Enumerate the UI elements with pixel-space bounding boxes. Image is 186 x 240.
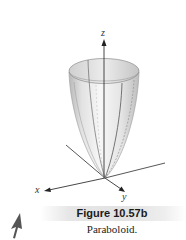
x-axis-arrowhead xyxy=(44,188,51,193)
figure-title: Figure 10.57b xyxy=(0,207,186,220)
x-axis xyxy=(49,178,105,190)
x-axis-label: x xyxy=(35,185,39,195)
figure-caption: Paraboloid. xyxy=(0,223,186,235)
z-axis-label: z xyxy=(101,28,105,38)
paraboloid-graphic xyxy=(0,0,186,205)
y-axis-label: y xyxy=(122,192,126,202)
z-axis-arrowhead xyxy=(102,39,107,46)
paraboloid-figure: z x y xyxy=(0,0,186,205)
y-axis xyxy=(105,178,121,189)
arrow-cursor-icon xyxy=(8,212,24,240)
